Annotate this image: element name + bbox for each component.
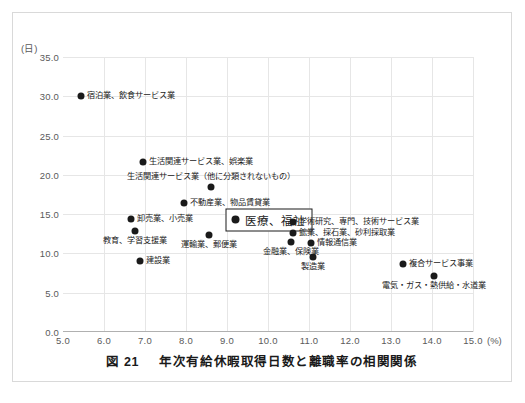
data-point-label: 不動産業、物品賃貸業 (190, 199, 270, 207)
data-point-marker (139, 159, 146, 166)
x-axis-tick: 8.0 (179, 335, 193, 346)
figure-caption: 図 21 年次有給休暇取得日数と離職率の相関関係 (13, 351, 511, 370)
caption-number: 図 21 (106, 355, 139, 369)
x-axis-tick: 5.0 (56, 335, 70, 346)
gridline-vertical (268, 57, 269, 332)
data-point-marker (131, 228, 138, 235)
x-axis-tick: 9.0 (220, 335, 234, 346)
data-point-label: 卸売業、小売業 (137, 215, 193, 223)
data-point-label: 運輸業、郵便業 (181, 241, 237, 249)
x-axis-tick: 7.0 (138, 335, 152, 346)
caption-title: 年次有給休暇取得日数と離職率の相関関係 (159, 355, 417, 369)
data-point-label: 電気・ガス・熱供給・水道業 (382, 282, 486, 290)
gridline-horizontal (63, 136, 473, 137)
data-point-marker (208, 183, 215, 190)
data-point-marker (290, 230, 297, 237)
data-point-label: 教育、学習支援業 (103, 237, 167, 245)
x-axis-tick-labels: 5.06.07.08.09.010.011.012.013.014.015.0(… (63, 335, 473, 351)
y-axis-tick: 30.0 (40, 91, 59, 102)
data-point-label: 生活関連サービス業、娯楽業 (149, 158, 253, 166)
gridline-vertical (350, 57, 351, 332)
y-axis-tick: 25.0 (40, 130, 59, 141)
y-axis-tick: 15.0 (40, 209, 59, 220)
x-axis-unit-label: (%) (487, 335, 502, 346)
gridline-vertical (432, 57, 433, 332)
data-point-marker (127, 215, 134, 222)
x-axis-tick: 14.0 (422, 335, 441, 346)
data-point-label: 複合サービス事業 (409, 260, 473, 268)
data-point-marker (287, 239, 294, 246)
gridline-vertical (227, 57, 228, 332)
data-point-label: 宿泊業、飲食サービス業 (87, 92, 175, 100)
scatter-plot-area: 宿泊業、飲食サービス業生活関連サービス業、娯楽業生活関連サービス業（他に分類され… (63, 57, 473, 332)
data-point-label: 鉱業、採石業、砂利採取業 (299, 229, 395, 237)
figure-card: (日) 0.05.010.015.020.025.030.035.0 5.06.… (12, 12, 512, 382)
gridline-vertical (473, 57, 474, 332)
y-axis-unit-label: (日) (21, 41, 37, 55)
data-point-label: 学術研究、専門、技術サービス業 (299, 218, 419, 226)
y-axis-tick-labels: 0.05.010.015.020.025.030.035.0 (13, 57, 59, 332)
data-point-marker (308, 240, 315, 247)
gridline-vertical (309, 57, 310, 332)
data-point-label: 情報通信業 (317, 239, 357, 247)
y-axis-tick: 10.0 (40, 248, 59, 259)
data-point-marker (78, 93, 85, 100)
data-point-marker (431, 273, 438, 280)
x-axis-tick: 13.0 (381, 335, 400, 346)
data-point-marker (205, 232, 212, 239)
y-axis-tick: 5.0 (45, 287, 59, 298)
y-axis-tick: 20.0 (40, 169, 59, 180)
gridline-vertical (391, 57, 392, 332)
x-axis-tick: 12.0 (340, 335, 359, 346)
data-point-marker (137, 258, 144, 265)
data-point-marker (400, 260, 407, 267)
x-axis-tick: 10.0 (258, 335, 277, 346)
y-axis-tick: 35.0 (40, 52, 59, 63)
x-axis-line (63, 331, 473, 332)
data-point-label: 製造業 (301, 263, 325, 271)
gridline-horizontal (63, 57, 473, 58)
data-point-marker (290, 219, 297, 226)
x-axis-tick: 6.0 (97, 335, 111, 346)
data-point-label: 生活関連サービス業（他に分類されないもの） (127, 172, 295, 180)
data-point-marker (180, 200, 187, 207)
gridline-vertical (186, 57, 187, 332)
x-axis-tick: 11.0 (300, 335, 319, 346)
x-axis-tick: 15.0 (463, 335, 482, 346)
data-point-marker (310, 253, 317, 260)
data-point-label: 建設業 (146, 257, 170, 265)
data-point-marker (232, 215, 240, 223)
gridline-horizontal (63, 293, 473, 294)
